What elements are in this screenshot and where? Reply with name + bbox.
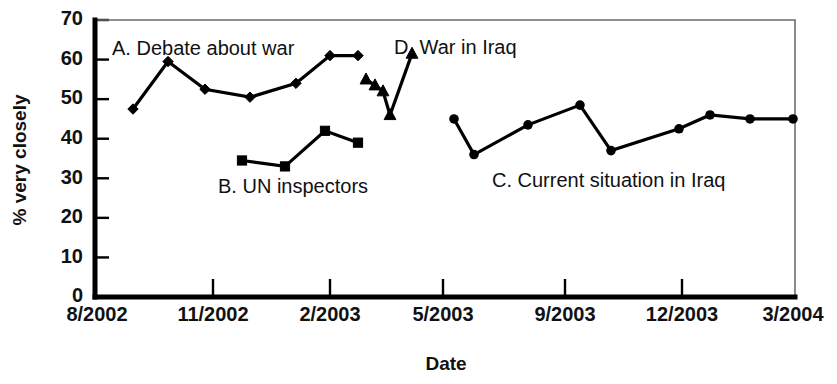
series-B (237, 126, 362, 171)
x-tick-label: 5/2003 (412, 303, 473, 325)
chart-container: 010203040506070 8/200211/20022/20035/200… (0, 0, 837, 384)
data-point-A (353, 50, 363, 60)
data-point-C (523, 120, 533, 130)
y-tick-label: 20 (61, 205, 83, 227)
series-label-C: C. Current situation in Iraq (492, 169, 725, 191)
y-tick-label: 10 (61, 245, 83, 267)
x-tick-label: 9/2003 (534, 303, 595, 325)
plot-frame (95, 20, 795, 297)
y-tick-label: 30 (61, 166, 83, 188)
data-point-C (674, 124, 684, 134)
data-point-C (788, 114, 798, 124)
y-tick-label: 50 (61, 86, 83, 108)
series-label-D: D. War in Iraq (394, 36, 517, 58)
series-line-C (454, 105, 793, 154)
data-point-C (449, 114, 459, 124)
x-tick-label: 2/2003 (299, 303, 360, 325)
x-axis-ticks (213, 279, 682, 297)
data-point-D (360, 73, 372, 84)
x-tick-label: 3/2004 (762, 303, 824, 325)
y-axis-title: % very closely (9, 94, 30, 225)
data-point-A (245, 92, 255, 102)
data-point-C (575, 100, 585, 110)
x-tick-label: 11/2002 (177, 303, 248, 325)
x-axis-title: Date (425, 353, 466, 374)
data-point-B (280, 162, 289, 171)
x-axis-tick-labels: 8/200211/20022/20035/20039/200312/20033/… (66, 303, 824, 325)
series-line-B (242, 131, 358, 167)
series-annotations: A. Debate about warB. UN inspectorsD. Wa… (112, 36, 725, 197)
data-point-D (384, 109, 396, 120)
y-tick-label: 70 (61, 7, 83, 29)
data-point-C (469, 150, 479, 160)
data-point-C (745, 114, 755, 124)
data-series-layer (128, 47, 798, 171)
x-tick-label: 8/2002 (66, 303, 127, 325)
y-tick-label: 40 (61, 126, 83, 148)
series-A (128, 50, 363, 114)
line-chart: 010203040506070 8/200211/20022/20035/200… (0, 0, 837, 384)
data-point-B (320, 126, 329, 135)
y-tick-label: 60 (61, 47, 83, 69)
y-axis-tick-labels: 010203040506070 (61, 7, 83, 306)
data-point-C (705, 110, 715, 120)
series-label-B: B. UN inspectors (218, 175, 368, 197)
series-C (449, 100, 798, 159)
x-tick-label: 12/2003 (646, 303, 718, 325)
series-label-A: A. Debate about war (112, 37, 295, 59)
series-D (360, 47, 418, 119)
data-point-B (353, 138, 362, 147)
data-point-C (606, 146, 616, 156)
data-point-B (237, 156, 246, 165)
